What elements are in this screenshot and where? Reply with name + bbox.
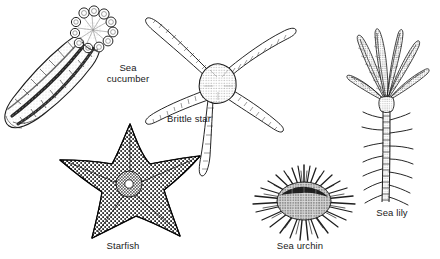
starfish-body <box>60 124 200 238</box>
sea-lily-calyx <box>379 97 394 113</box>
illustration-plate: Sea cucumber <box>0 0 440 259</box>
caption-sea-urchin: Sea urchin <box>261 240 339 251</box>
caption-starfish: Starfish <box>88 240 158 251</box>
figure-starfish <box>52 122 207 240</box>
sea-urchin-test <box>277 182 331 220</box>
sea-cucumber-tentacle-crown <box>70 6 118 53</box>
figure-sea-lily <box>338 6 436 206</box>
brittle-star-disc <box>199 64 236 104</box>
caption-sea-lily: Sea lily <box>363 207 421 218</box>
sea-lily-crown <box>347 29 429 100</box>
sea-lily-stalk <box>382 111 390 202</box>
